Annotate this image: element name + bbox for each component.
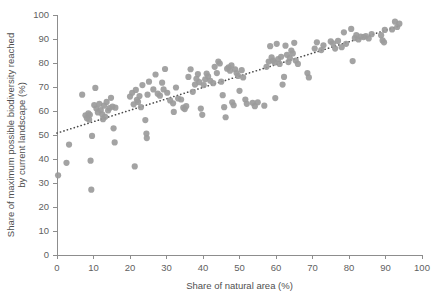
data-point [171,109,177,115]
data-point [236,88,242,94]
data-point [281,74,287,80]
data-point [218,79,224,85]
y-tick-label: 100 [33,9,49,20]
y-tick-label: 20 [38,201,49,212]
data-point [240,74,246,80]
x-tick-label: 100 [414,262,430,273]
y-tick-label: 50 [38,129,49,140]
data-point [183,103,189,109]
data-point [279,82,285,88]
x-tick-label: 0 [54,262,59,273]
data-point [382,27,388,33]
data-point [223,114,229,120]
data-point [217,60,223,66]
data-point [159,80,165,86]
y-tick-label: 80 [38,57,49,68]
data-point [221,104,227,110]
data-point [214,70,220,76]
data-points-layer [55,19,402,193]
data-point [314,39,320,45]
y-tick-label: 70 [38,81,49,92]
x-tick-label: 30 [161,262,172,273]
data-point [282,43,288,49]
data-point [396,21,402,27]
data-point [66,142,72,148]
x-axis-title: Share of natural area (%) [186,280,293,291]
data-point [332,46,338,52]
data-point [92,85,98,91]
data-point [132,163,138,169]
y-tick-label: 90 [38,33,49,44]
y-tick-layer: 0102030405060708090100 [33,9,57,260]
data-point [335,38,341,44]
y-tick-label: 40 [38,153,49,164]
data-point [89,133,95,139]
data-point [142,117,148,123]
data-point [272,95,278,101]
data-point [291,40,297,46]
axis-layer [57,15,422,255]
data-point [201,82,207,88]
data-point [88,187,94,193]
data-point [187,66,193,72]
data-point [350,58,356,64]
data-point [152,71,158,77]
data-point [274,41,280,47]
data-point [170,100,176,106]
data-point [102,114,108,120]
y-axis-title-line1: Share of maximum possible biodiversity r… [5,33,16,237]
x-tick-label: 90 [380,262,391,273]
data-point [63,160,69,166]
data-point [146,79,152,85]
data-point [108,95,114,101]
data-point [178,96,184,102]
data-point [290,50,296,56]
data-point [110,125,116,131]
data-point [173,84,179,90]
data-point [255,99,261,105]
data-point [112,105,118,111]
data-point [220,92,226,98]
data-point [87,112,93,118]
data-point [190,89,196,95]
data-point [261,103,267,109]
data-point [87,158,93,164]
data-point [263,64,269,70]
y-tick-label: 0 [44,249,49,260]
data-point [341,29,347,35]
data-point [135,99,141,105]
data-point [112,139,118,145]
data-point [185,74,191,80]
scatter-chart: 0102030405060708090100 01020304050607080… [0,0,434,295]
x-tick-label: 20 [125,262,136,273]
data-point [343,41,349,47]
x-tick-label: 80 [344,262,355,273]
data-point [136,93,142,99]
data-point [312,46,318,52]
x-tick-label: 50 [234,262,245,273]
data-point [79,92,85,98]
data-point [162,66,168,72]
y-axis-title-line2: by current landscape (%) [16,82,27,188]
data-point [239,67,245,73]
data-point [199,112,205,118]
x-tick-label: 40 [198,262,209,273]
data-point [244,101,250,107]
y-tick-label: 60 [38,105,49,116]
data-point [378,32,384,38]
data-point [320,42,326,48]
data-point [195,71,201,77]
data-point [277,61,283,67]
data-point [267,43,273,49]
y-tick-label: 30 [38,177,49,188]
data-point [144,92,150,98]
data-point [164,90,170,96]
data-point [210,80,216,86]
plot-area: 0102030405060708090100 01020304050607080… [0,0,434,295]
data-point [157,93,163,99]
x-tick-layer: 0102030405060708090100 [54,255,430,273]
x-tick-label: 10 [88,262,99,273]
data-point [231,102,237,108]
data-point [306,74,312,80]
data-point [144,135,150,141]
